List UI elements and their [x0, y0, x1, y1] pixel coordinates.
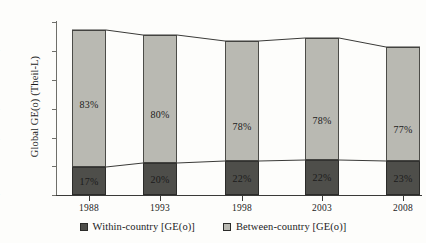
x-tick-label-1993: 1993	[130, 203, 190, 213]
bar-label-within-1993: 20%	[144, 174, 176, 185]
bar-label-within-1988: 17%	[73, 176, 105, 187]
bar-label-within-2003: 22%	[306, 172, 338, 183]
bar-segment-between-2003[interactable]: 78%	[305, 38, 339, 160]
legend-label-between-country: Between-country [GE(o)]	[236, 221, 346, 232]
legend-item-between-country[interactable]: Between-country [GE(o)]	[223, 221, 346, 232]
legend-label-within-country: Within-country [GE(o)]	[93, 221, 195, 232]
x-axis-line	[56, 195, 422, 196]
bar-label-between-2003: 78%	[306, 115, 338, 126]
bar-label-within-1998: 22%	[226, 173, 258, 184]
bar-group-1998[interactable]: 78% 22%	[225, 41, 259, 195]
bar-segment-within-1988[interactable]: 17%	[72, 167, 106, 195]
bar-label-within-2008: 23%	[387, 173, 419, 184]
chart-figure: Global GE(o) (Theil-L) 1.2 1.0 0.8 0.6 0…	[0, 0, 426, 243]
plot-area: 83% 17% 80% 20% 78% 22% 78%	[57, 22, 421, 195]
bar-segment-between-2008[interactable]: 77%	[386, 47, 420, 161]
x-tick-label-1998: 1998	[212, 203, 272, 213]
bar-label-between-1998: 78%	[226, 121, 258, 132]
bar-group-1988[interactable]: 83% 17%	[72, 30, 106, 195]
x-tick-mark-2008	[403, 196, 404, 201]
x-tick-label-2008: 2008	[373, 203, 426, 213]
x-tick-mark-1993	[160, 196, 161, 201]
bar-segment-within-1998[interactable]: 22%	[225, 161, 259, 195]
bar-segment-within-1993[interactable]: 20%	[143, 163, 177, 195]
bar-label-between-1993: 80%	[144, 109, 176, 120]
bar-group-2008[interactable]: 77% 23%	[386, 47, 420, 195]
chart-legend: Within-country [GE(o)] Between-country […	[0, 221, 426, 232]
bar-label-between-1988: 83%	[73, 99, 105, 110]
x-tick-label-1988: 1988	[59, 203, 119, 213]
legend-swatch-icon-between	[223, 223, 231, 231]
bar-label-between-2008: 77%	[387, 124, 419, 135]
bar-group-2003[interactable]: 78% 22%	[305, 38, 339, 195]
x-tick-label-2003: 2003	[292, 203, 352, 213]
x-tick-mark-1998	[242, 196, 243, 201]
legend-swatch-icon-within	[80, 223, 88, 231]
bar-segment-within-2003[interactable]: 22%	[305, 160, 339, 195]
bar-segment-within-2008[interactable]: 23%	[386, 161, 420, 195]
bar-segment-between-1988[interactable]: 83%	[72, 30, 106, 167]
legend-item-within-country[interactable]: Within-country [GE(o)]	[80, 221, 195, 232]
bar-group-1993[interactable]: 80% 20%	[143, 35, 177, 195]
x-tick-mark-2003	[322, 196, 323, 201]
bar-segment-between-1993[interactable]: 80%	[143, 35, 177, 163]
bar-segment-between-1998[interactable]: 78%	[225, 41, 259, 161]
x-tick-mark-1988	[89, 196, 90, 201]
y-axis-title: Global GE(o) (Theil-L)	[29, 12, 40, 202]
